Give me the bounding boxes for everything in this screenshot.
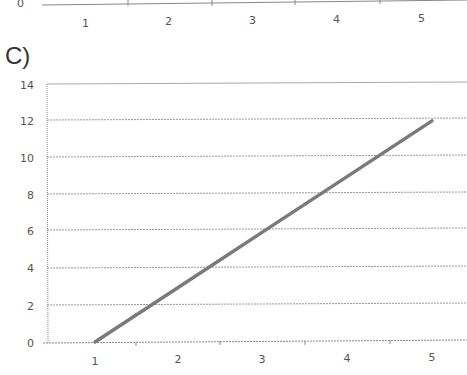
x-tick-5: 5 (429, 351, 436, 364)
y-tick-2: 2 (27, 300, 34, 313)
y-tick-0: 0 (27, 337, 34, 350)
y-tick-4: 4 (27, 262, 34, 275)
y-tick-labels: 14 12 10 8 6 4 2 0 (20, 79, 34, 350)
y-tick-10: 10 (20, 152, 34, 165)
series-line (95, 121, 432, 342)
gridlines (47, 82, 467, 305)
x-axis (43, 340, 467, 343)
x-tick-2: 2 (175, 353, 182, 366)
line-chart: 14 12 10 8 6 4 2 0 1 2 3 4 5 (0, 0, 467, 375)
x-tick-1: 1 (92, 355, 99, 368)
y-tick-6: 6 (27, 225, 34, 238)
y-axis (47, 84, 48, 343)
y-tick-12: 12 (20, 115, 34, 128)
x-tick-labels: 1 2 3 4 5 (92, 351, 436, 368)
x-tick-3: 3 (259, 353, 266, 366)
x-tick-4: 4 (344, 352, 351, 365)
y-tick-14: 14 (20, 79, 34, 92)
y-tick-8: 8 (27, 189, 34, 202)
